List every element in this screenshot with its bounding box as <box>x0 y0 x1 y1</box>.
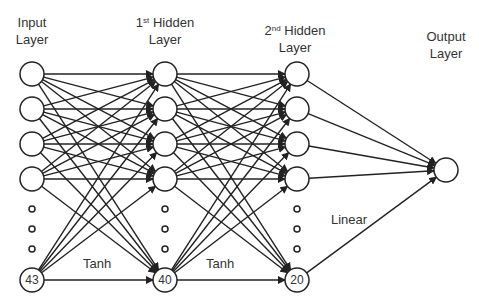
neuron-hidden2 <box>285 167 309 191</box>
connection-edge <box>307 80 436 163</box>
neuron-hidden2 <box>285 62 309 86</box>
neuron-output <box>434 158 458 182</box>
ellipsis-dot <box>29 246 35 252</box>
ellipsis-dot <box>29 226 35 232</box>
connection-edge <box>309 171 434 179</box>
connection-edge <box>307 177 437 273</box>
neuron-input: 43 <box>20 268 44 292</box>
neuron-input <box>20 62 44 86</box>
neuron-input <box>20 97 44 121</box>
ellipsis-dot <box>29 206 35 212</box>
ellipsis-dot <box>294 246 300 252</box>
neuron-input <box>20 167 44 191</box>
network-diagram: 434020 <box>0 0 479 308</box>
svg-text:43: 43 <box>25 273 39 287</box>
neuron-input <box>20 132 44 156</box>
ellipsis-dot <box>162 246 168 252</box>
ellipsis-dot <box>294 206 300 212</box>
ellipsis-dot <box>162 226 168 232</box>
neuron-hidden1 <box>153 97 177 121</box>
neuron-hidden2: 20 <box>285 268 309 292</box>
neuron-hidden1 <box>153 167 177 191</box>
ellipsis-dot <box>294 226 300 232</box>
ellipsis-dot <box>162 206 168 212</box>
neuron-hidden1 <box>153 62 177 86</box>
svg-text:40: 40 <box>158 273 172 287</box>
neuron-hidden1 <box>153 132 177 156</box>
neuron-hidden2 <box>285 97 309 121</box>
neuron-hidden2 <box>285 132 309 156</box>
svg-text:20: 20 <box>290 273 304 287</box>
neuron-hidden1: 40 <box>153 268 177 292</box>
connections <box>39 74 437 280</box>
